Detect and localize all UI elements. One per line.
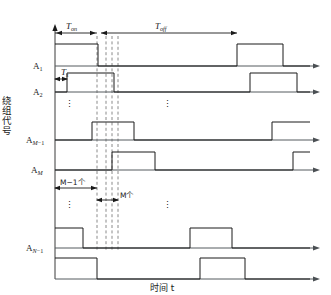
waveform-am1 [55, 122, 310, 140]
row-label-a1: A1 [33, 61, 43, 72]
waveform-an1 [55, 228, 310, 248]
m-minus-1-right-arrowhead [91, 186, 97, 190]
row-label-an1: AN−1 [26, 243, 43, 254]
timing-diagram-svg: Ton Toff A1 A2 Ts ⋮ ⋮ AM−1 AM [0, 0, 331, 295]
axis-arrowhead-a1 [313, 64, 320, 69]
axis-arrowhead-an1 [313, 246, 320, 251]
t-off-left-arrowhead [101, 31, 107, 35]
axis-arrowhead-am1 [313, 138, 320, 143]
t-on-right-arrowhead [90, 31, 96, 35]
row-label-am1: AM−1 [26, 135, 44, 146]
t-off-label: Toff [155, 21, 168, 32]
vertical-dots-mid-lower: ⋮ [163, 200, 172, 210]
vertical-dots-left-lower: ⋮ [65, 200, 74, 210]
axis-arrowhead-an [313, 277, 320, 282]
axis-arrowhead-a2 [313, 90, 320, 95]
t-s-label: Ts [61, 67, 69, 78]
row-label-a2: A2 [33, 87, 43, 98]
t-off-right-arrowhead [231, 31, 237, 35]
y-axis-title: 绕组代号 [1, 96, 11, 136]
t-on-label: Ton [66, 21, 77, 32]
axis-arrowhead-am [313, 168, 320, 173]
vertical-dots-left-upper: ⋮ [65, 99, 74, 109]
m-label: M个 [120, 191, 134, 200]
waveform-am [55, 152, 310, 170]
row-label-am: AM [31, 165, 44, 176]
waveform-a2 [55, 73, 310, 92]
waveform-a1 [55, 44, 310, 66]
vertical-dots-mid-upper: ⋮ [163, 99, 172, 109]
m-minus-1-label: M−1个 [60, 178, 86, 187]
x-axis-title: 时间 t [150, 282, 175, 293]
timing-diagram-figure: Ton Toff A1 A2 Ts ⋮ ⋮ AM−1 AM [0, 0, 331, 295]
waveform-an [55, 258, 310, 279]
vertical-axis-arrowhead [52, 24, 57, 31]
t-on-left-arrowhead [56, 31, 62, 35]
y-axis-title-container: 绕组代号 [1, 96, 17, 172]
